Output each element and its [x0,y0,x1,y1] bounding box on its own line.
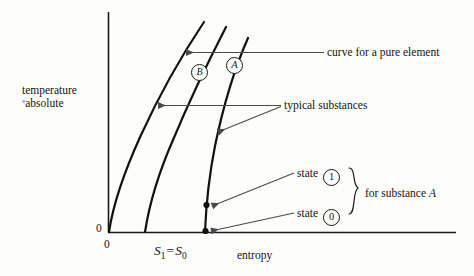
y-axis-label-line2: absolute [25,97,63,109]
annotation-state-0-text: state [297,207,318,219]
leader-typical-a [218,107,281,133]
y-origin-tick-label: 0 [96,222,102,235]
curve-substance-b [145,27,226,232]
brace-for-substance [349,168,358,214]
plot-canvas [0,0,474,276]
leader-state-1 [212,173,294,206]
entropy-symbol-1: S [154,243,161,258]
curve-tag-b: B [191,64,208,81]
annotation-state-1: state1 [297,167,340,186]
x-axis-label: entropy [237,249,272,262]
entropy-subscript-1: 1 [161,251,166,261]
temperature-entropy-figure: temperature °absolute 0 0 S1=S0 entropy … [0,0,474,276]
y-axis-label-line1: temperature [22,84,77,96]
annotation-state-1-badge: 1 [323,169,340,186]
annotation-for-substance-prefix: for substance [365,187,426,199]
annotation-for-substance: for substance A [365,187,436,200]
curve-tag-a: A [226,57,243,74]
equals-sign: = [166,243,176,258]
entropy-subscript-0: 0 [182,251,187,261]
annotation-state-0-badge: 0 [323,209,340,226]
x-origin-tick-label: 0 [104,238,110,251]
annotation-pure-element: curve for a pure element [327,46,439,59]
annotation-state-1-text: state [297,167,318,179]
curve-pure-element [109,22,204,232]
x-axis-entropy-state-tick: S1=S0 [154,243,187,261]
y-axis-label: temperature °absolute [22,84,77,110]
annotation-state-0: state0 [297,207,340,226]
annotation-typical-substances: typical substances [284,99,367,112]
entropy-symbol-0: S [175,243,182,258]
annotation-for-substance-name: A [429,187,436,199]
leader-state-0 [211,213,294,231]
state-0-marker [202,228,208,234]
state-1-marker [203,202,209,208]
